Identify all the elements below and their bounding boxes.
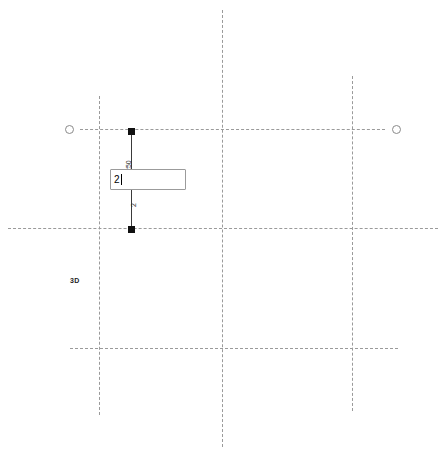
grid-bubble-left[interactable] — [65, 125, 74, 134]
grid-line-horizontal-3[interactable] — [70, 348, 398, 349]
dimension-edit-value: 2 — [114, 175, 120, 185]
grid-line-horizontal-2[interactable] — [8, 228, 438, 229]
grid-bubble-right[interactable] — [392, 125, 401, 134]
grip-top[interactable] — [128, 128, 135, 135]
grid-line-horizontal-1[interactable] — [80, 129, 385, 130]
drawing-canvas[interactable]: 250 2 2 3D — [0, 0, 446, 457]
text-caret — [121, 174, 122, 185]
grip-bottom[interactable] — [128, 226, 135, 233]
grid-line-vertical-1[interactable] — [99, 96, 100, 415]
grid-line-vertical-3[interactable] — [352, 76, 353, 411]
dimension-value-lower: 2 — [130, 203, 137, 207]
view-name-label: 3D — [70, 277, 80, 284]
dimension-edit-input[interactable]: 2 — [110, 169, 186, 190]
